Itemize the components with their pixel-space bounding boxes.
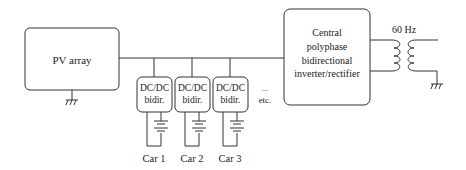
central-label-line3: bidirectional (302, 55, 353, 66)
transformer-icon (392, 40, 438, 84)
central-label-line1: Central (312, 27, 342, 38)
converter-1-label-line2: bidir. (145, 95, 165, 105)
car-1-label: Car 1 (142, 153, 165, 164)
converter-3-label-line2: bidir. (221, 95, 241, 105)
central-label-line2: polyphase (307, 41, 348, 52)
car-2-label: Car 2 (180, 153, 203, 164)
converter-2-label-line1: DC/DC (178, 83, 207, 93)
central-label-line4: inverter/rectifier (294, 68, 360, 79)
car-3-label: Car 3 (218, 153, 241, 164)
converter-1-label-line1: DC/DC (140, 83, 169, 93)
battery-icon (230, 121, 244, 131)
pv-array-label: PV array (52, 54, 92, 66)
battery-icon (154, 121, 168, 131)
frequency-label: 60 Hz (392, 24, 417, 35)
battery-icon (192, 121, 206, 131)
pv-ev-charging-diagram: PV array DC/DC bidir. DC/DC bidir. DC/DC… (0, 0, 466, 170)
pv-ground-icon (66, 90, 78, 105)
etc-label: etc. (259, 95, 272, 105)
ellipsis-label: ... (262, 84, 268, 93)
grid-ground-icon (431, 84, 443, 89)
converter-2-label-line2: bidir. (183, 95, 203, 105)
converter-3-label-line1: DC/DC (216, 83, 245, 93)
